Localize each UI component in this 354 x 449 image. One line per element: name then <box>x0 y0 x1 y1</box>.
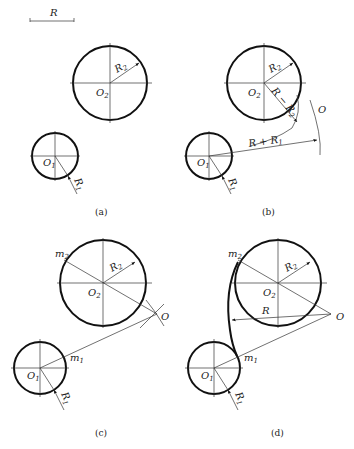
svg-text:R2: R2 <box>107 258 125 276</box>
label-m1: m1 <box>70 352 84 365</box>
svg-text:m2: m2 <box>228 248 242 261</box>
svg-text:O2: O2 <box>88 287 101 300</box>
panel-d: R2 O2 m2 R O m1 O1 R1 (d) <box>185 238 344 438</box>
line-o1-o <box>40 314 157 368</box>
label-o2: O2 <box>96 87 109 100</box>
svg-text:R2: R2 <box>282 258 300 276</box>
svg-text:R1: R1 <box>57 389 74 406</box>
svg-text:R2: R2 <box>112 59 130 77</box>
scale-bar-label: R <box>49 7 58 18</box>
svg-text:R2: R2 <box>266 59 284 77</box>
caption-d: (d) <box>271 428 284 438</box>
caption-a: (a) <box>95 207 107 217</box>
svg-text:O1: O1 <box>27 370 40 383</box>
svg-text:O2: O2 <box>263 287 276 300</box>
label-m2: m2 <box>55 248 69 261</box>
caption-b: (b) <box>262 207 275 217</box>
caption-c: (c) <box>95 428 107 438</box>
intersection-o: O <box>318 104 326 115</box>
svg-text:O2: O2 <box>248 87 261 100</box>
svg-text:O: O <box>336 311 344 322</box>
panel-b: R2 O2 R − R2 O R + R1 O1 R1 (b) <box>184 43 326 217</box>
panel-c: R2 O2 m2 O m1 O1 R1 (c) <box>11 238 169 438</box>
svg-text:O: O <box>161 311 169 322</box>
svg-text:O1: O1 <box>201 370 214 383</box>
svg-text:R: R <box>261 305 270 316</box>
svg-text:R1: R1 <box>231 389 248 406</box>
svg-text:R1: R1 <box>70 175 87 192</box>
scale-bar: R <box>30 7 74 22</box>
svg-text:m1: m1 <box>244 352 258 365</box>
panel-a: R2 O2 O1 R1 (a) <box>30 43 152 217</box>
radius-r <box>232 314 331 320</box>
label-o1: O1 <box>43 157 56 170</box>
svg-text:O1: O1 <box>197 157 210 170</box>
figure-canvas: R R2 O2 O1 R1 (a) R2 O2 R − R2 O <box>0 0 354 449</box>
svg-text:R1: R1 <box>224 175 241 192</box>
